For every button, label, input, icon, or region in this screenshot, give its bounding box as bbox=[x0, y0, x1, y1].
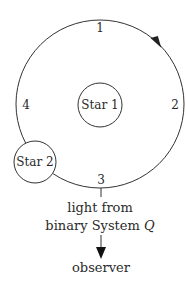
system-q-label: Q bbox=[144, 218, 155, 233]
observer-label: observer bbox=[72, 260, 131, 275]
down-arrow-icon bbox=[96, 247, 106, 259]
orbit-position-2: 2 bbox=[171, 98, 179, 112]
star-1-label: Star 1 bbox=[81, 98, 118, 112]
binary-star-orbit-diagram: 1 2 3 4 Star 1 Star 2 light from binary … bbox=[0, 0, 186, 288]
caption-line-1: light from bbox=[67, 200, 133, 215]
star-2-label: Star 2 bbox=[16, 155, 53, 169]
orbit-position-3: 3 bbox=[97, 173, 105, 187]
star-1: Star 1 bbox=[78, 83, 122, 127]
orbit-position-4: 4 bbox=[22, 98, 30, 112]
star-2: Star 2 bbox=[14, 141, 56, 183]
caption-line-2: binary System Q bbox=[45, 218, 155, 233]
orbit-position-1: 1 bbox=[96, 21, 104, 35]
